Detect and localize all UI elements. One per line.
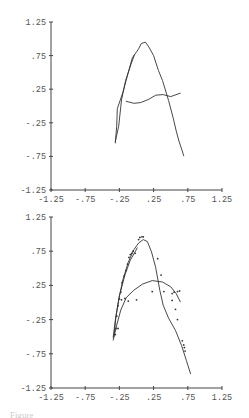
- x-tick-label: -.25: [109, 393, 129, 403]
- data-point: [171, 293, 173, 295]
- data-point: [129, 254, 131, 256]
- data-point: [115, 328, 117, 330]
- data-point: [132, 250, 134, 252]
- data-point: [184, 350, 186, 352]
- data-point: [184, 347, 186, 349]
- data-point: [131, 252, 133, 254]
- x-tick-label: 1.25: [212, 393, 232, 403]
- bottom-series: [113, 236, 190, 374]
- data-point: [136, 299, 138, 301]
- x-tick-label: -.25: [109, 195, 129, 205]
- bottom-x-ticks: -1.25-.75-.25.25.751.25: [38, 386, 232, 403]
- trajectory-A-return-strand: [115, 55, 134, 142]
- trajectory-B-line: [126, 93, 180, 103]
- data-point: [121, 299, 123, 301]
- bottom-chart: 1.25.75.25-.25-.75-1.25 -1.25-.75-.25.25…: [20, 213, 232, 403]
- data-point: [163, 291, 165, 293]
- top-y-ticks: 1.25.75.25-.25-.75-1.25: [20, 18, 53, 196]
- y-tick-label: -.25: [26, 119, 46, 129]
- data-point: [177, 291, 179, 293]
- data-point: [127, 300, 129, 302]
- data-point: [138, 239, 140, 241]
- data-point: [175, 308, 177, 310]
- x-tick-label: .75: [180, 393, 195, 403]
- y-tick-label: -.75: [26, 152, 46, 162]
- data-point: [124, 298, 126, 300]
- data-point: [128, 257, 130, 259]
- y-tick-label: -.75: [26, 350, 46, 360]
- y-tick-label: -.25: [26, 316, 46, 326]
- y-tick-label: .25: [31, 281, 46, 291]
- fit-curve-A-line: [113, 240, 190, 374]
- x-tick-label: .25: [146, 195, 161, 205]
- x-tick-label: 1.25: [212, 195, 232, 205]
- y-tick-label: .25: [31, 85, 46, 95]
- figure-caption: Figure: [10, 410, 249, 418]
- data-point: [173, 291, 175, 293]
- data-point: [139, 237, 141, 239]
- y-tick-label: 1.25: [26, 18, 46, 28]
- x-tick-label: -.75: [75, 195, 95, 205]
- x-tick-label: .25: [146, 393, 161, 403]
- x-tick-label: -1.25: [38, 195, 64, 205]
- data-point: [114, 334, 116, 336]
- x-tick-label: -1.25: [38, 393, 64, 403]
- data-point: [117, 328, 119, 330]
- data-point: [160, 274, 162, 276]
- figure-canvas: 1.25.75.25-.25-.75-1.25 -1.25-.75-.25.25…: [0, 0, 249, 418]
- y-tick-label: .75: [31, 52, 46, 62]
- data-point: [171, 300, 173, 302]
- data-point: [177, 319, 179, 321]
- data-point: [179, 290, 181, 292]
- data-point: [142, 236, 144, 238]
- top-chart: 1.25.75.25-.25-.75-1.25 -1.25-.75-.25.25…: [20, 18, 232, 205]
- x-tick-label: .75: [180, 195, 195, 205]
- data-point: [183, 344, 185, 346]
- top-series: [115, 42, 183, 156]
- fit-curve-B-line: [113, 281, 180, 341]
- x-tick-label: -.75: [75, 393, 95, 403]
- data-point: [157, 258, 159, 260]
- y-tick-label: .75: [31, 247, 46, 257]
- data-point: [151, 291, 153, 293]
- data-point: [181, 340, 183, 342]
- y-tick-label: 1.25: [26, 213, 46, 223]
- top-x-ticks: -1.25-.75-.25.25.751.25: [38, 188, 232, 205]
- bottom-y-ticks: 1.25.75.25-.25-.75-1.25: [20, 213, 53, 394]
